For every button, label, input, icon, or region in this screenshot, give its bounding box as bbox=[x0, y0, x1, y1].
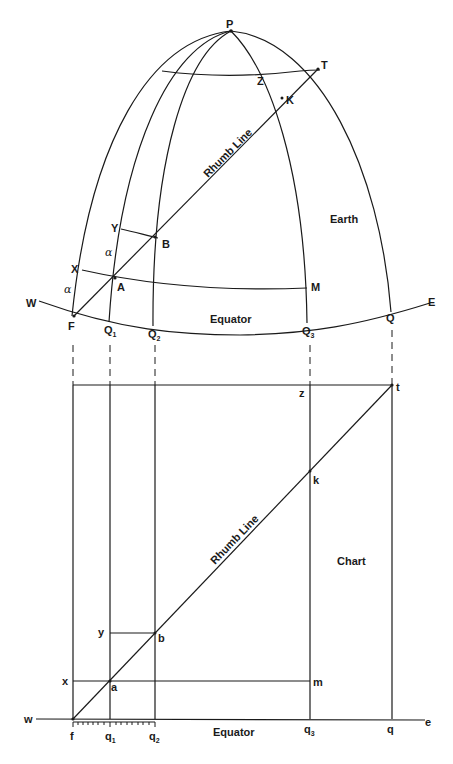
label-q: q bbox=[387, 723, 394, 735]
label-w: w bbox=[23, 713, 33, 725]
parallel-upper bbox=[162, 70, 320, 75]
label-q1: q1 bbox=[105, 730, 116, 744]
label-K: K bbox=[286, 94, 294, 106]
mercator-chart bbox=[36, 385, 425, 727]
label-x: x bbox=[62, 675, 69, 687]
meridian-outer-right bbox=[231, 31, 391, 312]
label-F: F bbox=[68, 320, 75, 332]
label-k: k bbox=[313, 474, 320, 486]
chart-equator-label: Equator bbox=[213, 726, 255, 738]
angle-alpha-lower: α bbox=[64, 283, 72, 296]
label-Q3: Q3 bbox=[302, 325, 315, 339]
label-X: X bbox=[71, 263, 79, 275]
chart-rhumb-label: Rhumb Line bbox=[208, 512, 261, 566]
label-Q: Q bbox=[386, 312, 395, 324]
chart-title: Chart bbox=[337, 555, 366, 567]
label-t: t bbox=[396, 381, 400, 393]
label-b: b bbox=[158, 632, 165, 644]
label-W: W bbox=[26, 297, 37, 309]
chart-equator bbox=[36, 719, 425, 720]
label-P: P bbox=[226, 18, 233, 30]
label-Y: Y bbox=[111, 222, 119, 234]
label-a: a bbox=[111, 681, 118, 693]
angle-alpha-upper: α bbox=[105, 246, 113, 259]
label-T: T bbox=[321, 59, 328, 71]
label-B: B bbox=[162, 238, 170, 250]
intersection-points bbox=[71, 29, 393, 720]
projection-lines bbox=[73, 330, 392, 385]
chart-rhumb-line bbox=[73, 385, 392, 719]
label-q2: q2 bbox=[149, 730, 160, 744]
label-f: f bbox=[70, 730, 74, 742]
parallel-xam bbox=[82, 270, 307, 289]
earth-rhumb-label: Rhumb Line bbox=[201, 126, 254, 179]
label-m: m bbox=[313, 676, 323, 688]
earth-title: Earth bbox=[330, 213, 358, 225]
earth-rhumb-line bbox=[74, 69, 318, 316]
label-y: y bbox=[98, 626, 105, 638]
label-E: E bbox=[428, 296, 435, 308]
label-z: z bbox=[299, 387, 305, 399]
label-M: M bbox=[311, 281, 320, 293]
label-Q1: Q1 bbox=[104, 324, 117, 338]
earth-projection bbox=[39, 31, 430, 335]
equator-scale-ticks bbox=[73, 722, 155, 727]
label-Z: Z bbox=[257, 75, 264, 87]
earth-equator-label: Equator bbox=[210, 313, 252, 325]
label-A: A bbox=[117, 281, 125, 293]
label-e: e bbox=[425, 716, 431, 728]
rhumb-line-diagram: P T Z K Y B X A M W E F Q1 Q2 Q3 Q α α E… bbox=[0, 0, 453, 764]
label-q3: q3 bbox=[304, 723, 315, 737]
